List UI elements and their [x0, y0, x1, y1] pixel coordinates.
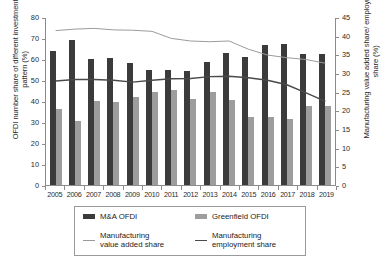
- chart-legend: M&A OFDI Greenfield OFDI Manufacturing v…: [74, 206, 306, 256]
- axis-tick-mark: [336, 93, 339, 94]
- x-axis-tick-label: 2013: [200, 190, 219, 199]
- axis-tick-label: 25: [342, 88, 350, 97]
- x-axis-tick-label: 2018: [297, 190, 316, 199]
- axis-tick-mark: [336, 130, 339, 131]
- x-axis-tick-label: 2011: [161, 190, 180, 199]
- axis-tick-mark: [336, 18, 339, 19]
- line-employment-share: [56, 76, 326, 101]
- legend-row-bars: M&A OFDI Greenfield OFDI: [83, 212, 297, 222]
- axis-tick-label: 0: [342, 181, 346, 190]
- legend-swatch-employment-line-icon: [195, 240, 207, 241]
- x-axis-tick-label: 2007: [84, 190, 103, 199]
- axis-tick-mark: [42, 123, 45, 124]
- legend-swatch-greenfield-icon: [195, 214, 207, 219]
- x-axis-tick-label: 2012: [181, 190, 200, 199]
- y-axis-label: OFDI number share of different investmen…: [11, 0, 30, 149]
- legend-item-ma-ofdi[interactable]: M&A OFDI: [83, 212, 195, 222]
- line-value-added-share: [56, 28, 326, 63]
- legend-label-employment-share: Manufacturing employment share: [212, 231, 276, 250]
- x-axis-tick-label: 2017: [278, 190, 297, 199]
- x-axis-tick-label: 2005: [45, 190, 64, 199]
- legend-label-ma-ofdi: M&A OFDI: [100, 212, 137, 222]
- axis-tick-label: 50: [31, 76, 39, 85]
- legend-item-employment-share[interactable]: Manufacturing employment share: [195, 231, 276, 250]
- axis-tick-label: 40: [31, 97, 39, 106]
- axis-tick-label: 15: [342, 125, 350, 134]
- axis-tick-mark: [336, 111, 339, 112]
- axis-tick-label: 45: [342, 13, 350, 22]
- x-axis-tick-label: 2006: [64, 190, 83, 199]
- axis-tick-label: 20: [342, 106, 350, 115]
- line-series-container: [46, 18, 335, 185]
- legend-item-value-added-share[interactable]: Manufacturing value added share: [83, 231, 195, 250]
- x-axis-tick-label: 2008: [103, 190, 122, 199]
- axis-tick-mark: [42, 18, 45, 19]
- x-axis-tick-label: 2019: [317, 190, 336, 199]
- legend-label-employment-line2: employment share: [212, 240, 276, 249]
- axis-tick-label: 10: [31, 160, 39, 169]
- axis-tick-mark: [336, 149, 339, 150]
- axis-tick-label: 10: [342, 144, 350, 153]
- legend-item-greenfield-ofdi[interactable]: Greenfield OFDI: [195, 212, 269, 222]
- axis-tick-label: 30: [31, 118, 39, 127]
- axis-tick-label: 60: [31, 55, 39, 64]
- axis-tick-label: 0: [35, 181, 39, 190]
- legend-label-value-added-share: Manufacturing value added share: [100, 231, 164, 250]
- legend-label-employment-line1: Manufacturing: [212, 231, 261, 240]
- x-axis-tick-mark: [336, 186, 337, 190]
- x-axis-tick-label: 2010: [142, 190, 161, 199]
- legend-label-greenfield-ofdi: Greenfield OFDI: [212, 212, 269, 222]
- axis-tick-label: 35: [342, 50, 350, 59]
- legend-swatch-value-added-line-icon: [83, 240, 95, 241]
- axis-tick-mark: [42, 165, 45, 166]
- legend-swatch-ma-icon: [83, 214, 95, 219]
- x-axis-tick-label: 2015: [239, 190, 258, 199]
- axis-tick-mark: [42, 102, 45, 103]
- axis-tick-label: 30: [342, 69, 350, 78]
- legend-row-lines: Manufacturing value added share Manufact…: [83, 231, 297, 250]
- axis-tick-mark: [336, 167, 339, 168]
- x-axis-tick-labels: 2005200620072008200920102011201220132014…: [45, 190, 336, 199]
- axis-tick-label: 70: [31, 34, 39, 43]
- axis-tick-label: 80: [31, 13, 39, 22]
- axis-tick-mark: [42, 39, 45, 40]
- axis-tick-mark: [336, 37, 339, 38]
- axis-tick-mark: [336, 55, 339, 56]
- x-axis-tick-label: 2016: [258, 190, 277, 199]
- axis-tick-label: 5: [342, 162, 346, 171]
- axis-tick-label: 20: [31, 139, 39, 148]
- legend-label-value-added-line2: value added share: [100, 240, 164, 249]
- plot-area: [45, 18, 336, 186]
- x-axis-tick-label: 2014: [220, 190, 239, 199]
- legend-label-value-added-line1: Manufacturing: [100, 231, 149, 240]
- x-axis-tick-label: 2009: [123, 190, 142, 199]
- secondary-y-axis-label: Manufacturing value added share/ employm…: [362, 0, 381, 141]
- chart-figure: OFDI number share of different investmen…: [0, 0, 389, 262]
- axis-tick-mark: [336, 74, 339, 75]
- axis-tick-label: 40: [342, 32, 350, 41]
- axis-tick-mark: [42, 144, 45, 145]
- axis-tick-mark: [42, 60, 45, 61]
- axis-tick-mark: [42, 81, 45, 82]
